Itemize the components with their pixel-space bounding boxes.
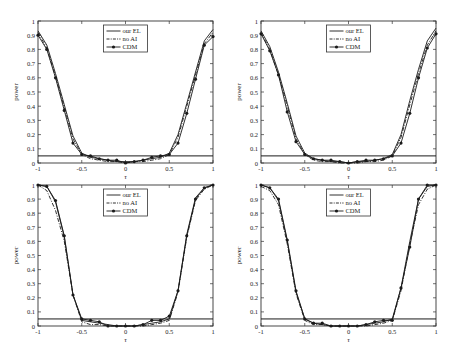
- cdm-marker: [347, 161, 350, 164]
- cdm-marker: [417, 198, 420, 201]
- cdm-marker: [329, 324, 332, 327]
- legend-entry-label: CDM: [123, 43, 138, 50]
- y-axis-label: power: [235, 246, 243, 264]
- x-tick-label: -0.5: [77, 328, 87, 335]
- cdm-marker: [391, 319, 394, 322]
- cdm-marker: [329, 159, 332, 162]
- cdm-marker: [124, 161, 127, 164]
- cdm-marker: [259, 183, 262, 186]
- y-tick-label: 0.2: [250, 131, 258, 138]
- legend-entry-label: no AI: [123, 199, 138, 206]
- cdm-marker: [356, 324, 359, 327]
- cdm-marker: [277, 198, 280, 201]
- cdm-marker: [159, 319, 162, 322]
- y-tick-label: 0.8: [250, 46, 258, 53]
- y-tick-label: 0.1: [250, 145, 258, 152]
- cdm-marker: [115, 324, 118, 327]
- legend-entry-label: our EL: [123, 27, 141, 34]
- cdm-marker: [303, 153, 306, 156]
- cdm-marker: [294, 140, 297, 143]
- x-tick-label: 0.5: [165, 328, 173, 335]
- cdm-marker: [211, 183, 214, 186]
- cdm-marker: [36, 183, 39, 186]
- y-tick-label: 1: [255, 18, 258, 25]
- chart-panel-bottom-left: 00.10.20.30.40.50.60.70.80.91-1-0.500.51…: [12, 182, 215, 345]
- legend: our ELno AICDM: [327, 189, 371, 216]
- y-tick-label: 0.5: [27, 252, 35, 259]
- legend-entry-label: CDM: [346, 207, 361, 214]
- legend-entry-label: our EL: [346, 27, 364, 34]
- cdm-marker: [45, 185, 48, 188]
- cdm-marker: [408, 245, 411, 248]
- x-tick-label: 0.5: [388, 165, 396, 172]
- cdm-marker: [124, 324, 127, 327]
- cdm-marker: [356, 160, 359, 163]
- y-tick-label: 0.6: [27, 74, 36, 81]
- cdm-marker: [426, 183, 429, 186]
- legend: our ELno AICDM: [104, 189, 148, 216]
- x-tick-label: 1: [211, 165, 214, 172]
- x-tick-label: 0: [347, 165, 350, 172]
- legend-entry-label: CDM: [346, 43, 361, 50]
- cdm-marker: [168, 315, 171, 318]
- cdm-marker: [115, 159, 118, 162]
- cdm-marker: [45, 48, 48, 51]
- x-tick-label: 0.5: [388, 328, 396, 335]
- y-tick-label: 0.7: [27, 60, 36, 67]
- cdm-marker: [373, 320, 376, 323]
- cdm-marker: [98, 320, 101, 323]
- cdm-marker: [286, 238, 289, 241]
- y-tick-label: 0.2: [27, 131, 35, 138]
- cdm-marker: [426, 46, 429, 49]
- cdm-marker: [185, 112, 188, 115]
- y-tick-label: 0.4: [27, 266, 36, 273]
- cdm-marker: [399, 142, 402, 145]
- cdm-marker: [80, 153, 83, 156]
- y-tick-label: 0.5: [250, 252, 258, 259]
- y-tick-label: 0.4: [250, 103, 259, 110]
- cdm-marker: [286, 110, 289, 113]
- cdm-marker: [434, 32, 437, 35]
- cdm-marker: [98, 157, 101, 160]
- y-tick-label: 0.3: [27, 280, 35, 287]
- cdm-marker: [71, 293, 74, 296]
- cdm-marker: [63, 109, 66, 112]
- cdm-marker: [268, 186, 271, 189]
- y-tick-label: 1: [32, 18, 35, 25]
- y-tick-label: 0.7: [250, 224, 259, 231]
- x-tick-label: -1: [258, 328, 263, 335]
- y-tick-label: 0.1: [250, 308, 258, 315]
- cdm-marker: [294, 289, 297, 292]
- cdm-marker: [391, 154, 394, 157]
- y-tick-label: 1: [32, 182, 35, 189]
- cdm-marker: [106, 159, 109, 162]
- cdm-marker: [373, 159, 376, 162]
- cdm-marker: [133, 160, 136, 163]
- cdm-marker: [417, 76, 420, 79]
- cdm-marker: [312, 322, 315, 325]
- y-tick-label: 0.9: [27, 196, 35, 203]
- y-tick-label: 0.8: [27, 46, 35, 53]
- cdm-marker: [159, 154, 162, 157]
- x-tick-label: -1: [35, 165, 40, 172]
- cdm-marker: [338, 324, 341, 327]
- cdm-marker: [36, 34, 39, 37]
- cdm-marker: [364, 159, 367, 162]
- legend-entry-label: our EL: [123, 191, 141, 198]
- y-tick-label: 0.9: [27, 32, 35, 39]
- y-tick-label: 0.4: [27, 103, 36, 110]
- chart-panel-bottom-right: 00.10.20.30.40.50.60.70.80.91-1-0.500.51…: [235, 182, 438, 345]
- chart-panel-top-left: 00.10.20.30.40.50.60.70.80.91-1-0.500.51…: [12, 18, 215, 182]
- legend-entry-label: our EL: [346, 191, 364, 198]
- cdm-marker: [211, 35, 214, 38]
- legend: our ELno AICDM: [104, 25, 148, 52]
- legend-entry-label: no AI: [123, 35, 138, 42]
- cdm-marker: [54, 76, 57, 79]
- x-tick-label: 1: [434, 328, 437, 335]
- cdm-marker: [321, 159, 324, 162]
- cdm-marker: [168, 153, 171, 156]
- cdm-marker: [312, 157, 315, 160]
- cdm-marker: [364, 323, 367, 326]
- legend-entry-label: no AI: [346, 199, 361, 206]
- cdm-marker: [176, 289, 179, 292]
